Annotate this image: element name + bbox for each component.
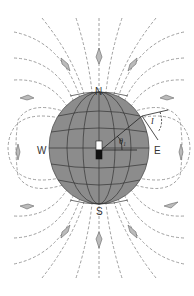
compass-icon [20, 204, 34, 209]
magnet-north-pole [96, 141, 102, 150]
compass-icon [179, 144, 183, 160]
compass-icon [96, 232, 102, 248]
compass-icon [128, 225, 137, 238]
latitude-angle-label: θ₁ [119, 138, 126, 146]
compass-icon [96, 48, 102, 64]
inclination-angle-label: I [151, 118, 154, 126]
magnet-south-pole [96, 150, 102, 159]
compass-icon [20, 95, 34, 100]
diagram-canvas [0, 0, 194, 296]
south-label: S [96, 207, 103, 217]
compass-icon [61, 58, 70, 71]
compass-icon [128, 58, 137, 71]
east-label: E [154, 146, 161, 156]
magnetic-field-diagram: N S W E θ₁ I [0, 0, 194, 296]
north-label: N [95, 87, 102, 97]
compass-icon [164, 202, 178, 208]
compass-icon [61, 225, 70, 238]
west-label: W [37, 146, 46, 156]
bar-magnet [96, 141, 102, 159]
compass-icon [160, 95, 174, 100]
